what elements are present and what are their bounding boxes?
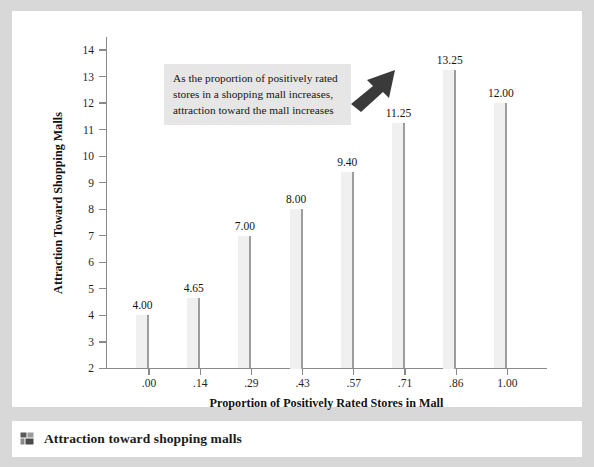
bar-chart-plot: 234567891011121314 .00.14.29.43.57.71.86… <box>12 11 582 407</box>
x-axis-line <box>106 368 547 369</box>
x-tick-label: .29 <box>244 377 258 389</box>
y-tick: 14 <box>99 49 106 50</box>
y-tick: 9 <box>99 182 106 183</box>
y-axis-line <box>106 37 107 369</box>
bar <box>341 172 354 368</box>
thumbnail-icon <box>20 432 35 446</box>
y-tick-label: 2 <box>88 362 94 374</box>
bar-value-label: 9.40 <box>337 156 357 168</box>
y-tick-label: 10 <box>83 150 95 162</box>
bar-value-label: 12.00 <box>488 87 514 99</box>
y-tick-label: 7 <box>88 230 94 242</box>
y-tick: 6 <box>99 262 106 263</box>
annotation-callout: As the proportion of positively rated st… <box>164 64 351 125</box>
bar <box>290 209 303 368</box>
y-tick: 8 <box>99 209 106 210</box>
y-tick: 10 <box>99 156 106 157</box>
y-tick: 13 <box>99 76 106 77</box>
x-tick-label: .71 <box>398 377 412 389</box>
bar <box>494 103 507 368</box>
y-tick: 4 <box>99 315 106 316</box>
x-tick <box>200 369 201 375</box>
chart-panel: 234567891011121314 .00.14.29.43.57.71.86… <box>12 11 582 407</box>
annotation-line-1: As the proportion of positively rated <box>173 70 342 86</box>
bar <box>392 123 405 369</box>
bar-value-label: 7.00 <box>235 220 255 232</box>
x-axis-title: Proportion of Positively Rated Stores in… <box>106 396 547 411</box>
y-tick-label: 4 <box>88 309 94 321</box>
x-tick-label: 1.00 <box>497 377 517 389</box>
x-tick <box>404 369 405 375</box>
arrow-up-right-icon <box>347 56 417 116</box>
y-tick-label: 9 <box>88 177 94 189</box>
bar-value-label: 13.25 <box>437 54 463 66</box>
bar <box>136 315 149 368</box>
x-tick <box>148 369 149 375</box>
y-tick-label: 6 <box>88 256 94 268</box>
x-tick-label: .86 <box>449 377 463 389</box>
bar-value-label: 8.00 <box>286 193 306 205</box>
figure-frame: 234567891011121314 .00.14.29.43.57.71.86… <box>0 0 594 467</box>
x-tick <box>507 369 508 375</box>
caption-text: Attraction toward shopping malls <box>44 431 242 447</box>
y-tick-label: 5 <box>88 283 94 295</box>
x-tick-label: .00 <box>142 377 156 389</box>
y-tick: 3 <box>99 341 106 342</box>
y-tick-label: 8 <box>88 203 94 215</box>
y-tick-label: 13 <box>83 71 95 83</box>
y-tick: 11 <box>99 129 106 130</box>
annotation-line-2: stores in a shopping mall increases, <box>173 86 342 102</box>
annotation-line-3: attraction toward the mall increases <box>173 102 342 118</box>
x-tick-label: .57 <box>347 377 361 389</box>
bar-value-label: 4.00 <box>132 299 152 311</box>
x-tick <box>353 369 354 375</box>
y-tick-label: 14 <box>83 44 95 56</box>
y-tick: 2 <box>99 368 106 369</box>
bar <box>238 236 251 369</box>
x-tick <box>456 369 457 375</box>
y-tick: 5 <box>99 288 106 289</box>
x-tick-label: .43 <box>295 377 309 389</box>
x-tick <box>251 369 252 375</box>
y-tick: 12 <box>99 102 106 103</box>
caption-panel: Attraction toward shopping malls <box>12 421 582 457</box>
bar <box>443 70 456 369</box>
y-tick-label: 3 <box>88 336 94 348</box>
bar <box>187 298 200 368</box>
x-tick <box>302 369 303 375</box>
bar-value-label: 4.65 <box>184 282 204 294</box>
y-tick: 7 <box>99 235 106 236</box>
x-tick-label: .14 <box>193 377 207 389</box>
y-tick-label: 12 <box>83 97 95 109</box>
y-tick-label: 11 <box>83 124 94 136</box>
y-axis-title: Attraction Toward Shopping Malls <box>51 112 66 294</box>
